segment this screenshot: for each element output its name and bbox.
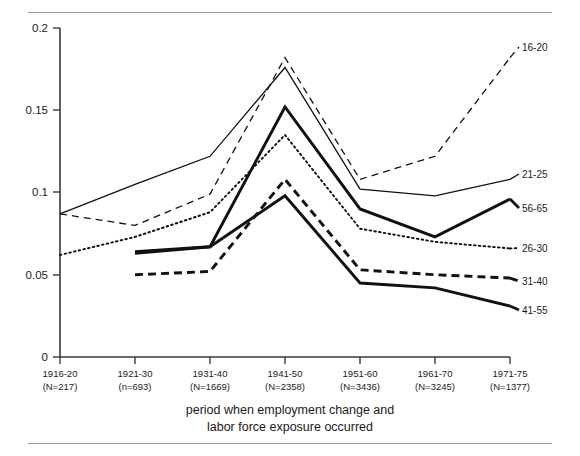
series-leader-56-65 [510,199,519,208]
series-line-21-25 [60,67,510,213]
series-labels: 16-20 21-25 56-65 26-30 31-40 41-55 [522,42,548,316]
chart-axes [60,28,510,357]
y-axis-tick-labels: 0.2 0.15 0.1 0.05 0 [26,22,48,363]
chart-caption: period when employment change and labor … [186,403,395,434]
series-line-41-55 [135,196,510,306]
line-chart-figure: 0.2 0.15 0.1 0.05 0 1916-20 (N=217) 1921… [0,0,580,456]
x-axis-tick-labels: 1916-20 (N=217) 1921-30 (n=693) 1931-40 … [43,368,530,392]
series-label-26-30: 26-30 [522,243,548,254]
y-tick-label: 0.2 [32,22,48,34]
caption-line-2: labor force exposure occurred [207,420,373,434]
series-leader-31-40 [510,278,519,281]
x-tick-count: (N=217) [43,381,78,392]
x-tick-count: (N=3245) [415,381,455,392]
series-label-56-65: 56-65 [522,203,548,214]
series-label-21-25: 21-25 [522,169,548,180]
series-leader-21-25 [510,174,519,179]
x-tick-count: (N=1669) [190,381,230,392]
series-label-16-20: 16-20 [522,42,548,53]
chart-series-layer [60,58,510,306]
x-tick-period: 1941-50 [268,368,303,379]
x-tick-period: 1921-30 [118,368,153,379]
y-tick-label: 0 [42,351,48,363]
x-tick-period: 1951-60 [343,368,378,379]
x-tick-count: (N=3436) [340,381,380,392]
x-tick-count: (N=1377) [490,381,530,392]
series-label-31-40: 31-40 [522,276,548,287]
caption-line-1: period when employment change and [186,403,395,417]
x-tick-period: 1916-20 [43,368,78,379]
x-tick-period: 1961-70 [418,368,453,379]
y-tick-marks [53,28,60,357]
y-tick-label: 0.15 [26,104,48,116]
series-leader-41-55 [510,306,519,310]
y-tick-label: 0.05 [26,269,48,281]
x-tick-count: (n=693) [118,381,151,392]
x-tick-marks [60,357,510,364]
series-label-41-55: 41-55 [522,305,548,316]
x-tick-period: 1971-75 [493,368,528,379]
series-leader-16-20 [510,47,519,58]
series-label-leaders [510,47,519,310]
y-tick-label: 0.1 [32,186,48,198]
x-tick-period: 1931-40 [193,368,228,379]
series-line-16-20 [60,58,510,226]
x-tick-count: (N=2358) [265,381,305,392]
